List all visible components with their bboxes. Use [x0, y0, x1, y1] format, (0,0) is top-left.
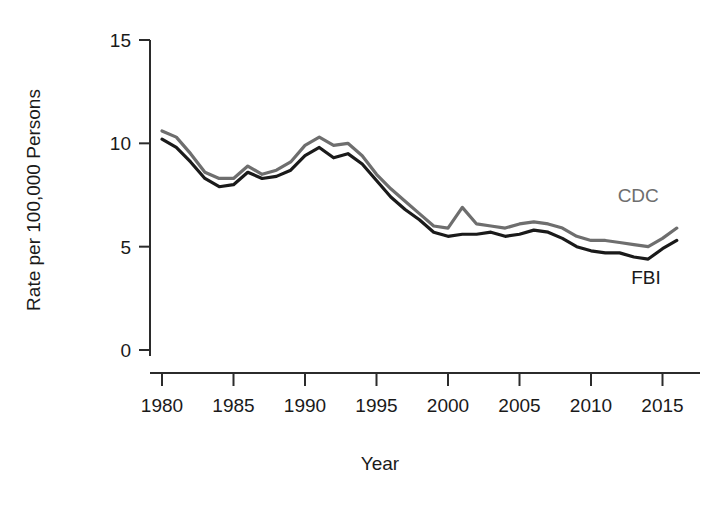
x-tick-label: 1990 [284, 395, 326, 416]
y-tick-label: 10 [110, 133, 131, 154]
x-tick-group: 19801985199019952000200520102015 [141, 373, 684, 416]
y-axis-title: Rate per 100,000 Persons [23, 89, 44, 311]
y-tick-label: 0 [120, 340, 131, 361]
y-tick-label: 15 [110, 30, 131, 51]
series-label-fbi: FBI [631, 267, 661, 288]
series-line-cdc [162, 131, 677, 247]
y-tick-label: 5 [120, 237, 131, 258]
x-tick-label: 2005 [498, 395, 540, 416]
line-chart: 051015 19801985199019952000200520102015 … [0, 0, 727, 506]
series-group [162, 131, 677, 259]
series-label-cdc: CDC [618, 185, 659, 206]
x-tick-label: 1980 [141, 395, 183, 416]
x-tick-label: 2015 [641, 395, 683, 416]
y-tick-group: 051015 [110, 30, 150, 361]
x-axis-title: Year [361, 453, 400, 474]
x-tick-label: 2000 [427, 395, 469, 416]
x-tick-label: 1995 [355, 395, 397, 416]
x-tick-label: 1985 [212, 395, 254, 416]
chart-svg: 051015 19801985199019952000200520102015 … [0, 0, 727, 506]
chart-page: 051015 19801985199019952000200520102015 … [0, 0, 727, 506]
x-tick-label: 2010 [570, 395, 612, 416]
series-label-group: CDCFBI [618, 185, 661, 288]
